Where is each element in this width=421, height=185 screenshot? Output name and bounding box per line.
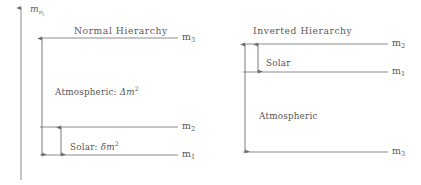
splitting-label-inverted-hierarchy-solar: Solar — [266, 59, 291, 68]
splitting-label-inverted-hierarchy-atmospheric: Atmospheric — [259, 112, 318, 121]
axis-label-m: m — [30, 3, 39, 14]
splitting-label-normal-hierarchy-solar: Solar: δm2 — [70, 143, 119, 152]
panel-title-normal-hierarchy: Normal Hierarchy — [74, 26, 168, 35]
axis-label-index: i — [43, 12, 45, 17]
neutrino-mass-hierarchy-figure: mνi Normal Hierarchym3m2m1Atmospheric: Δ… — [0, 0, 421, 185]
mass-label-inverted-hierarchy-m1: m1 — [392, 66, 405, 76]
mass-label-inverted-hierarchy-m2: m2 — [392, 38, 405, 48]
mass-label-inverted-hierarchy-m3: m3 — [392, 146, 405, 156]
mass-axis-label: mνi — [30, 4, 44, 14]
mass-label-normal-hierarchy-m2: m2 — [182, 121, 195, 131]
mass-label-normal-hierarchy-m3: m3 — [182, 32, 195, 42]
splitting-label-normal-hierarchy-atmospheric: Atmospheric: Δm2 — [55, 88, 139, 97]
panel-title-inverted-hierarchy: Inverted Hierarchy — [253, 26, 352, 35]
mass-label-normal-hierarchy-m1: m1 — [182, 149, 195, 159]
